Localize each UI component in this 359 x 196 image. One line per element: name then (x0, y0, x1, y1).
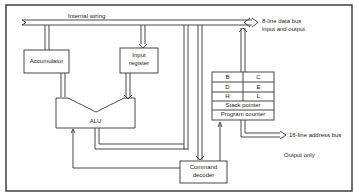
data-bus-label-2: input and output (262, 26, 305, 33)
accumulator-label: Accumulator (24, 58, 69, 65)
register-c: C (243, 74, 274, 81)
command-decoder-label-1: Command (180, 164, 227, 171)
command-decoder-label-2: decoder (180, 172, 227, 179)
register-h: H (212, 93, 243, 100)
address-bus-label: 16-line address bus (289, 132, 341, 139)
program-counter-label: Program counter (212, 111, 274, 118)
alu-label: ALU (56, 118, 135, 125)
internal-wiring-label: Internal wiring (68, 13, 105, 20)
register-b: B (212, 74, 243, 81)
stack-pointer-label: Stack pointer (212, 102, 274, 109)
register-d: D (212, 84, 243, 91)
register-l: L (243, 93, 274, 100)
output-only-label: Output only (284, 152, 315, 159)
data-bus-label-1: 8-line data bus (262, 18, 301, 25)
register-e: E (243, 84, 274, 91)
input-register-label-1: Input (120, 52, 158, 59)
input-register-label-2: register (120, 60, 158, 67)
